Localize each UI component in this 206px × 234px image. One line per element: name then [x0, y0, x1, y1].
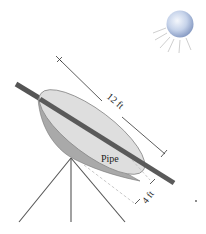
solar-collector-diagram: 12 ft Pipe 4 ft	[0, 0, 206, 234]
length-label: 12 ft	[105, 91, 126, 112]
sun-icon	[153, 11, 194, 54]
pipe-label: Pipe	[101, 153, 119, 164]
dot-mark	[195, 200, 197, 202]
depth-label: 4 ft	[140, 189, 156, 206]
sun-disc	[167, 11, 194, 38]
